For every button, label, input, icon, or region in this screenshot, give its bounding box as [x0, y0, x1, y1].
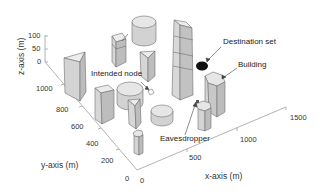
building-box-mid-left — [95, 85, 114, 124]
y-axis-title: y-axis (m) — [41, 161, 78, 170]
building-triangle-prism-low — [128, 99, 141, 129]
z-tick-50: 50 — [32, 45, 40, 53]
y-tick-800: 800 — [56, 106, 69, 114]
figure-canvas: Destination set Building Intended node E… — [0, 0, 320, 194]
z-tick-100: 100 — [28, 32, 41, 40]
x-tick-1000: 1000 — [240, 136, 257, 144]
building-cylinder-center — [151, 105, 173, 126]
arrow-eavesdropper — [185, 105, 195, 135]
building-triangle-prism-left — [64, 52, 86, 101]
building-box-tall — [112, 33, 126, 67]
label-intended-node: Intended node — [91, 70, 142, 78]
label-destination-set: Destination set — [223, 38, 276, 46]
building-triangle-prism-mid — [140, 51, 155, 82]
y-tick-1000: 1000 — [36, 85, 53, 93]
y-axis-line — [45, 62, 137, 170]
y-tick-200: 200 — [101, 157, 114, 165]
z-tick-0: 0 — [37, 58, 41, 66]
x-axis-title: x-axis (m) — [205, 172, 242, 181]
building-tower — [172, 20, 193, 100]
label-eavesdropper: Eavesdropper — [160, 135, 210, 143]
arrow-building — [224, 68, 237, 77]
x-tick-0: 0 — [140, 177, 144, 185]
x-tick-1500: 1500 — [290, 114, 307, 122]
arrow-destination — [208, 47, 221, 60]
building-hexagon-right — [196, 101, 211, 131]
eavesdropper-node — [196, 100, 199, 103]
y-tick-600: 600 — [71, 123, 84, 131]
y-tick-400: 400 — [86, 140, 99, 148]
destination-node — [196, 62, 208, 71]
x-tick-500: 500 — [189, 154, 202, 162]
z-axis-title: z-axis (m) — [17, 38, 26, 75]
building-hexagon-small — [133, 130, 143, 155]
label-building: Building — [238, 61, 266, 69]
building-cylinder-top — [132, 16, 156, 46]
y-tick-0: 0 — [125, 175, 129, 183]
